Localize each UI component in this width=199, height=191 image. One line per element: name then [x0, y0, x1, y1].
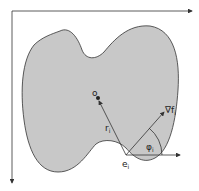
object-shape	[22, 26, 178, 172]
diagram-canvas: o ri ∇fi φi ei	[0, 0, 199, 191]
edge-point-label: ei	[122, 159, 130, 170]
origin-label: o	[92, 88, 98, 98]
